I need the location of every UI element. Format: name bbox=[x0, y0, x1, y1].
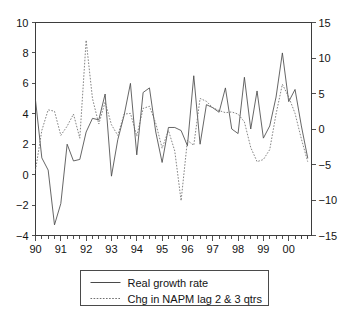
y-right-tick-label: −10 bbox=[319, 194, 338, 206]
x-tick-label: 93 bbox=[105, 243, 117, 255]
y-axis-right-tick-labels: 151050−5−10−15 bbox=[319, 17, 338, 242]
chart-canvas: 9091929394959697989900 1086420−2−4 15105… bbox=[0, 0, 353, 311]
legend-label: Chg in NAPM lag 2 & 3 qtrs bbox=[128, 293, 263, 305]
y-right-tick-label: 15 bbox=[319, 17, 331, 29]
chart-figure: 9091929394959697989900 1086420−2−4 15105… bbox=[0, 0, 353, 311]
y-axis-left-ticks bbox=[32, 23, 36, 236]
y-right-tick-label: −5 bbox=[319, 159, 332, 171]
legend-label: Real growth rate bbox=[128, 277, 209, 289]
x-tick-label: 92 bbox=[80, 243, 92, 255]
x-tick-label: 90 bbox=[29, 243, 41, 255]
y-axis-left-tick-labels: 1086420−2−4 bbox=[16, 17, 29, 242]
chart-legend: Real growth rateChg in NAPM lag 2 & 3 qt… bbox=[81, 271, 269, 306]
y-left-tick-label: 8 bbox=[22, 47, 28, 59]
x-tick-label: 95 bbox=[156, 243, 168, 255]
x-axis-ticks bbox=[36, 236, 308, 241]
y-right-tick-label: 10 bbox=[319, 52, 331, 64]
plot-frame bbox=[36, 23, 312, 236]
series-line-2 bbox=[36, 40, 308, 200]
x-tick-label: 97 bbox=[207, 243, 219, 255]
x-tick-label: 98 bbox=[232, 243, 244, 255]
y-axis-right-ticks bbox=[312, 23, 316, 236]
x-tick-label: 00 bbox=[283, 243, 295, 255]
y-right-tick-label: −15 bbox=[319, 230, 338, 242]
x-axis-tick-labels: 9091929394959697989900 bbox=[29, 243, 294, 255]
x-tick-label: 99 bbox=[257, 243, 269, 255]
y-left-tick-label: −4 bbox=[16, 230, 29, 242]
y-right-tick-label: 0 bbox=[319, 123, 325, 135]
data-series-layer bbox=[36, 40, 308, 225]
x-tick-label: 91 bbox=[55, 243, 67, 255]
y-left-tick-label: −2 bbox=[16, 199, 29, 211]
y-left-tick-label: 6 bbox=[22, 77, 28, 89]
series-line-1 bbox=[36, 53, 308, 225]
y-left-tick-label: 4 bbox=[22, 108, 28, 120]
x-tick-label: 96 bbox=[181, 243, 193, 255]
y-left-tick-label: 10 bbox=[16, 17, 28, 29]
y-right-tick-label: 5 bbox=[319, 88, 325, 100]
x-tick-label: 94 bbox=[131, 243, 143, 255]
y-left-tick-label: 2 bbox=[22, 138, 28, 150]
y-left-tick-label: 0 bbox=[22, 169, 28, 181]
